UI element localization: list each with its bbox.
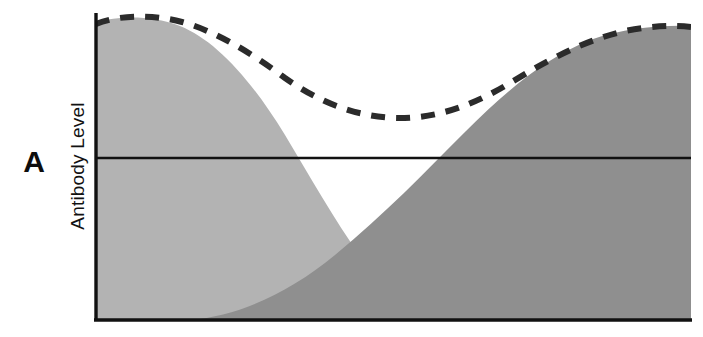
antibody-level-chart <box>0 0 703 337</box>
figure-panel-a: A Antibody Level <box>0 0 703 337</box>
